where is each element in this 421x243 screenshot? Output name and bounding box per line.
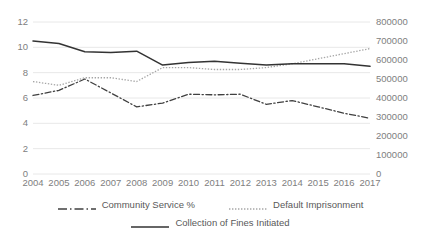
x-axis-tick-label: 2008 [126, 178, 147, 188]
x-axis: 2004200520062007200820092010201120122013… [33, 178, 370, 192]
legend-row: Collection of Fines Initiated [0, 218, 421, 228]
x-axis-tick-label: 2013 [256, 178, 277, 188]
y-axis-left-tick-label: 10 [17, 42, 28, 52]
chart-container: 024681012 010000020000030000040000050000… [0, 0, 421, 243]
y-axis-right-tick-label: 700000 [376, 36, 408, 46]
y-axis-right-tick-label: 100000 [376, 150, 408, 160]
x-axis-tick-label: 2010 [178, 178, 199, 188]
y-axis-left-tick-label: 12 [17, 17, 28, 27]
legend-item-community-service[interactable]: Community Service % [58, 200, 195, 210]
x-axis-tick-label: 2016 [333, 178, 354, 188]
y-axis-right-tick-label: 200000 [376, 131, 408, 141]
y-axis-left-tick-label: 2 [23, 144, 28, 154]
gridlines [33, 22, 370, 174]
series-line-2 [33, 41, 370, 66]
legend-label: Default Imprisonment [273, 200, 363, 210]
legend-swatch-solid-icon [131, 218, 169, 228]
y-axis-right-tick-label: 500000 [376, 74, 408, 84]
legend-item-collection-of-fines[interactable]: Collection of Fines Initiated [131, 218, 289, 228]
legend-row: Community Service % Default Imprisonment [0, 200, 421, 210]
chart-legend: Community Service % Default Imprisonment [0, 200, 421, 243]
y-axis-left-tick-label: 4 [23, 118, 28, 128]
x-axis-tick-label: 2017 [359, 178, 380, 188]
plot-svg [33, 22, 370, 174]
series-line-0 [33, 79, 370, 118]
legend-swatch-dotted-icon [229, 200, 267, 210]
y-axis-right-tick-label: 800000 [376, 17, 408, 27]
x-axis-tick-label: 2004 [22, 178, 43, 188]
x-axis-tick-label: 2011 [204, 178, 224, 188]
x-axis-tick-label: 2005 [48, 178, 69, 188]
x-axis-tick-label: 2015 [308, 178, 329, 188]
series-layer [33, 41, 370, 118]
x-axis-tick-label: 2007 [100, 178, 121, 188]
y-axis-left-tick-label: 6 [23, 93, 28, 103]
x-axis-tick-label: 2009 [152, 178, 173, 188]
y-axis-left-tick-label: 8 [23, 68, 28, 78]
legend-label: Community Service % [102, 200, 195, 210]
legend-item-default-imprisonment[interactable]: Default Imprisonment [229, 200, 363, 210]
y-axis-right-tick-label: 400000 [376, 93, 408, 103]
x-axis-tick-label: 2014 [282, 178, 303, 188]
x-axis-tick-label: 2006 [74, 178, 95, 188]
y-axis-right-tick-label: 300000 [376, 112, 408, 122]
x-axis-tick-label: 2012 [230, 178, 251, 188]
legend-swatch-dash-dot-icon [58, 200, 96, 210]
legend-label: Collection of Fines Initiated [175, 218, 289, 228]
y-axis-right-tick-label: 600000 [376, 55, 408, 65]
plot-area [33, 22, 370, 174]
